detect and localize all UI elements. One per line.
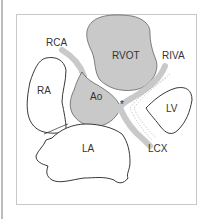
- label-ao: Ao: [90, 91, 103, 102]
- label-la: LA: [82, 143, 95, 154]
- label-rca: RCA: [46, 37, 67, 48]
- heart-cross-section-diagram: RCA RVOT RIVA RA Ao * LV LA LCX: [0, 0, 208, 219]
- label-ra: RA: [37, 85, 51, 96]
- label-rvot: RVOT: [112, 50, 140, 61]
- label-lv: LV: [166, 103, 178, 114]
- label-lcx: LCX: [148, 143, 168, 154]
- label-asterisk: *: [120, 99, 124, 110]
- label-riva: RIVA: [162, 50, 185, 61]
